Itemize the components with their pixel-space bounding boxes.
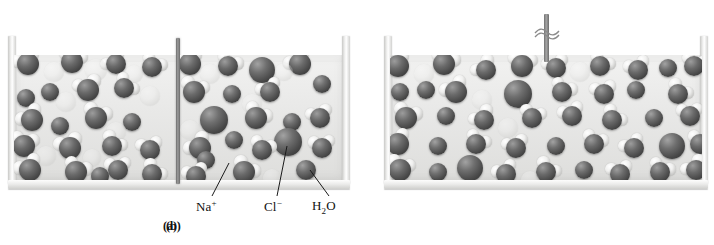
- legend-leader-lines: [0, 0, 714, 245]
- leader-line-water: [310, 170, 329, 196]
- legend-label-sodium: Na+: [196, 199, 217, 213]
- leader-line-sodium: [212, 163, 229, 196]
- legend-label-water: H2O: [312, 199, 336, 216]
- leader-line-chloride: [277, 146, 287, 196]
- legend-label-chloride: Cl−: [264, 199, 282, 213]
- rod-break-icon: [532, 24, 562, 42]
- panel-b-caption: (b): [166, 219, 181, 234]
- figure-root: (a)(b)Na+Cl−H2O: [0, 0, 714, 245]
